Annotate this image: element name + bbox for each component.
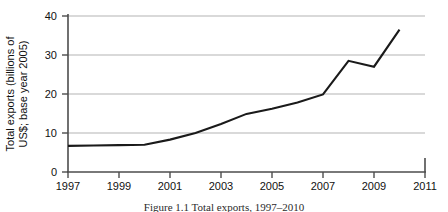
y-tick-label-20: 20 [45,88,57,100]
figure-container: 40 30 20 10 0 1997 1999 2001 2003 2005 2… [0,0,448,212]
x-tick-label-2003: 2003 [209,180,233,192]
y-axis-title-line1: Total exports (billions of [4,36,16,152]
figure-caption: Figure 1.1 Total exports, 1997–2010 [0,200,448,212]
x-tick-label-2011: 2011 [413,180,437,192]
y-tick-label-0: 0 [51,166,57,178]
y-axis-title-line2: US$; base year 2005) [17,40,29,147]
y-tick-label-30: 30 [45,49,57,61]
y-axis-title: Total exports (billions of US$; base yea… [4,36,29,152]
x-tick-label-1997: 1997 [56,180,80,192]
y-tick-label-10: 10 [45,127,57,139]
x-tick-label-2009: 2009 [362,180,386,192]
x-tick-label-2007: 2007 [311,180,335,192]
x-tick-label-2005: 2005 [260,180,284,192]
y-tick-label-40: 40 [45,10,57,22]
x-tick-label-2001: 2001 [158,180,182,192]
line-chart: 40 30 20 10 0 1997 1999 2001 2003 2005 2… [0,0,448,212]
x-tick-label-1999: 1999 [107,180,131,192]
